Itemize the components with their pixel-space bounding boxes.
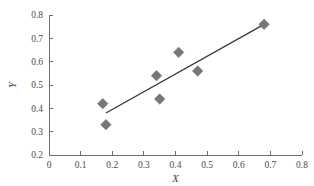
y-tick-label: 0.2 bbox=[31, 150, 43, 160]
data-point-marker bbox=[192, 66, 202, 76]
axis-frame bbox=[49, 15, 302, 155]
data-point-marker bbox=[101, 119, 111, 129]
scatter-chart: 0.20.30.40.50.60.70.800.10.20.30.40.50.6… bbox=[0, 0, 314, 186]
y-tick-label: 0.8 bbox=[31, 10, 43, 20]
x-tick-label: 0.6 bbox=[233, 160, 245, 170]
data-point-marker bbox=[259, 19, 269, 29]
y-tick-label: 0.4 bbox=[31, 104, 43, 114]
x-tick-label: 0.2 bbox=[106, 160, 118, 170]
data-point-marker bbox=[98, 98, 108, 108]
data-point-marker bbox=[151, 70, 161, 80]
x-tick-label: 0.7 bbox=[264, 160, 276, 170]
x-tick-label: 0.3 bbox=[138, 160, 150, 170]
plot-area: 0.20.30.40.50.60.70.800.10.20.30.40.50.6… bbox=[0, 0, 314, 186]
x-tick-label: 0.5 bbox=[201, 160, 213, 170]
x-tick-label: 0.8 bbox=[296, 160, 308, 170]
x-tick-label: 0.4 bbox=[170, 160, 182, 170]
trend-line bbox=[106, 24, 264, 113]
y-tick-label: 0.3 bbox=[31, 127, 43, 137]
y-tick-label: 0.5 bbox=[31, 80, 43, 90]
y-tick-label: 0.7 bbox=[31, 34, 43, 44]
y-axis-title: Y bbox=[7, 81, 18, 88]
y-tick-label: 0.6 bbox=[31, 57, 43, 67]
data-point-marker bbox=[173, 47, 183, 57]
x-axis-title: X bbox=[171, 173, 179, 184]
data-point-marker bbox=[154, 94, 164, 104]
x-tick-label: 0.1 bbox=[75, 160, 87, 170]
x-tick-label: 0 bbox=[47, 160, 52, 170]
